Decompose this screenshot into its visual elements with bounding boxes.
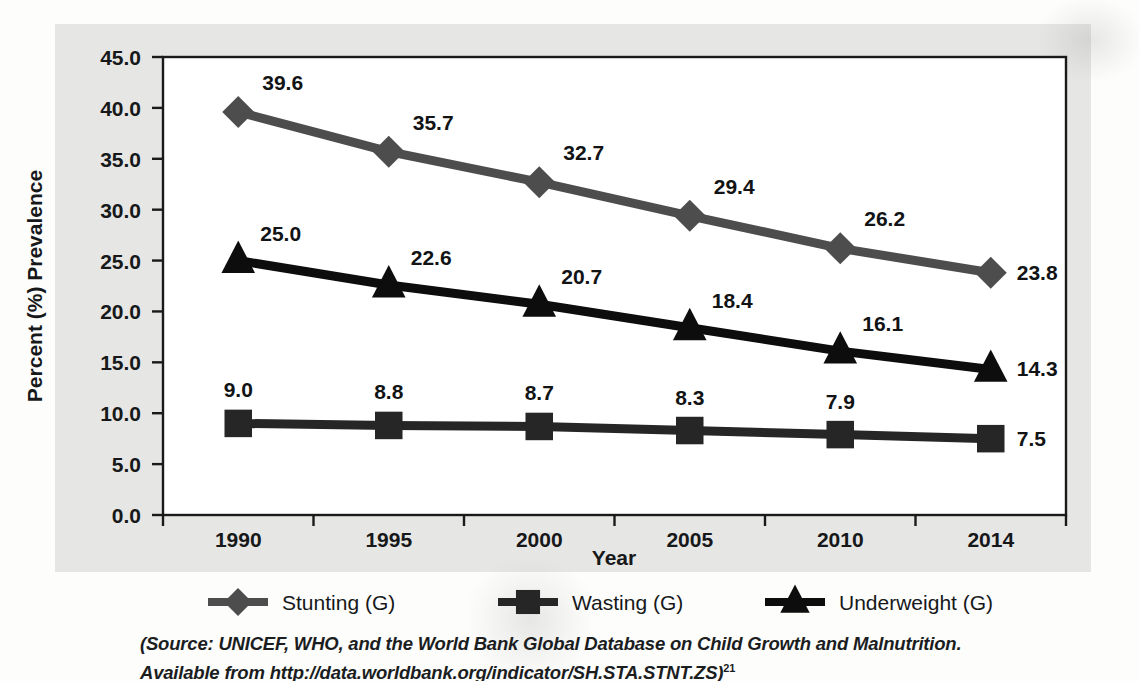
y-tick-label: 40.0: [100, 97, 141, 120]
series-marker: [375, 412, 403, 440]
series-marker: [224, 410, 252, 438]
data-point-label: 8.3: [675, 386, 704, 409]
legend-item[interactable]: Underweight (G): [765, 585, 993, 615]
source-superscript: 21: [723, 662, 735, 674]
y-tick-label: 30.0: [100, 199, 141, 222]
x-tick-label: 1995: [365, 528, 412, 551]
chart-legend: Stunting (G)Wasting (G)Underweight (G): [208, 585, 993, 617]
y-tick-label: 45.0: [100, 46, 141, 69]
x-tick-label: 2014: [967, 528, 1014, 551]
y-tick-label: 25.0: [100, 250, 141, 273]
source-line-1: (Source: UNICEF, WHO, and the World Bank…: [140, 633, 961, 654]
x-tick-label: 2010: [817, 528, 864, 551]
line-chart: 0.05.010.015.020.025.030.035.040.045.0 1…: [0, 0, 1139, 681]
series-marker: [977, 425, 1005, 453]
legend-item-label: Underweight (G): [839, 591, 993, 614]
data-point-label: 35.7: [413, 111, 454, 134]
x-tick-label: 1990: [215, 528, 262, 551]
y-axis-tick-labels: 0.05.010.015.020.025.030.035.040.045.0: [100, 46, 141, 527]
x-tick-label: 2005: [666, 528, 713, 551]
legend-marker-icon: [516, 590, 540, 614]
legend-item-label: Wasting (G): [572, 591, 683, 614]
data-point-label: 23.8: [1017, 261, 1058, 284]
series-marker: [676, 417, 704, 445]
x-tick-label: 2000: [516, 528, 563, 551]
data-point-label: 32.7: [563, 141, 604, 164]
data-point-label: 25.0: [260, 222, 301, 245]
y-tick-label: 15.0: [100, 351, 141, 374]
x-axis-title: Year: [592, 546, 636, 569]
series-marker: [826, 421, 854, 449]
legend-marker-icon: [224, 588, 252, 616]
y-axis-title: Percent (%) Prevalence: [23, 170, 46, 402]
source-line-2: Available from http://data.worldbank.org…: [140, 662, 723, 681]
y-tick-label: 20.0: [100, 300, 141, 323]
data-point-label: 7.5: [1017, 427, 1047, 450]
legend-item-label: Stunting (G): [282, 591, 395, 614]
legend-item[interactable]: Stunting (G): [208, 588, 395, 616]
y-axis-ticks: [152, 57, 163, 515]
data-point-label: 20.7: [561, 265, 602, 288]
data-point-label: 8.8: [374, 380, 404, 403]
legend-item[interactable]: Wasting (G): [498, 590, 683, 614]
x-axis-ticks: [163, 515, 1066, 526]
y-tick-label: 35.0: [100, 148, 141, 171]
data-point-label: 16.1: [862, 312, 903, 335]
data-point-label: 14.3: [1017, 357, 1058, 380]
source-note: (Source: UNICEF, WHO, and the World Bank…: [140, 631, 1040, 681]
data-point-label: 26.2: [864, 207, 905, 230]
y-tick-label: 5.0: [112, 453, 141, 476]
data-point-label: 9.0: [224, 378, 253, 401]
y-tick-label: 0.0: [112, 504, 141, 527]
data-point-label: 7.9: [826, 390, 855, 413]
data-point-label: 8.7: [525, 381, 554, 404]
data-point-label: 18.4: [712, 289, 753, 312]
data-point-label: 39.6: [262, 71, 303, 94]
data-point-label: 22.6: [411, 246, 452, 269]
figure-container: 0.05.010.015.020.025.030.035.040.045.0 1…: [0, 0, 1139, 681]
series-marker: [525, 413, 553, 441]
y-tick-label: 10.0: [100, 402, 141, 425]
data-point-label: 29.4: [714, 175, 755, 198]
